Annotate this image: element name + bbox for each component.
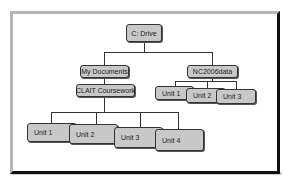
connector [140, 112, 141, 127]
node-nc2006data: NC2006data [187, 65, 238, 78]
node-label: Unit 3 [121, 134, 139, 141]
node-label: NC2006data [193, 68, 232, 75]
node-label: Unit 1 [34, 129, 52, 136]
node-label: Unit 3 [223, 93, 241, 100]
connector [236, 81, 237, 89]
node-clait-unit-2: Unit 2 [69, 124, 118, 144]
node-my-documents: My Documents [80, 65, 129, 78]
connector [104, 52, 105, 66]
connector [212, 52, 213, 66]
node-label: Unit 4 [162, 137, 180, 144]
connector [144, 42, 145, 52]
node-label: Unit 2 [76, 131, 94, 138]
node-c-drive: C: Drive [126, 24, 162, 42]
node-label: Unit 1 [162, 90, 180, 97]
connector [178, 112, 179, 129]
connector [104, 97, 105, 112]
connector [175, 81, 236, 82]
node-label: CLAIT Coursework [76, 87, 135, 94]
connector [207, 81, 208, 88]
connector [96, 112, 97, 124]
connector [104, 52, 212, 53]
node-clait-coursework: CLAIT Coursework [76, 84, 135, 97]
connector [51, 112, 52, 123]
connector [51, 112, 179, 113]
node-clait-unit-4: Unit 4 [155, 129, 204, 151]
node-nc-unit-3: Unit 3 [216, 89, 256, 104]
node-label: C: Drive [131, 30, 156, 37]
node-label: My Documents [81, 68, 128, 75]
node-label: Unit 2 [193, 92, 211, 99]
